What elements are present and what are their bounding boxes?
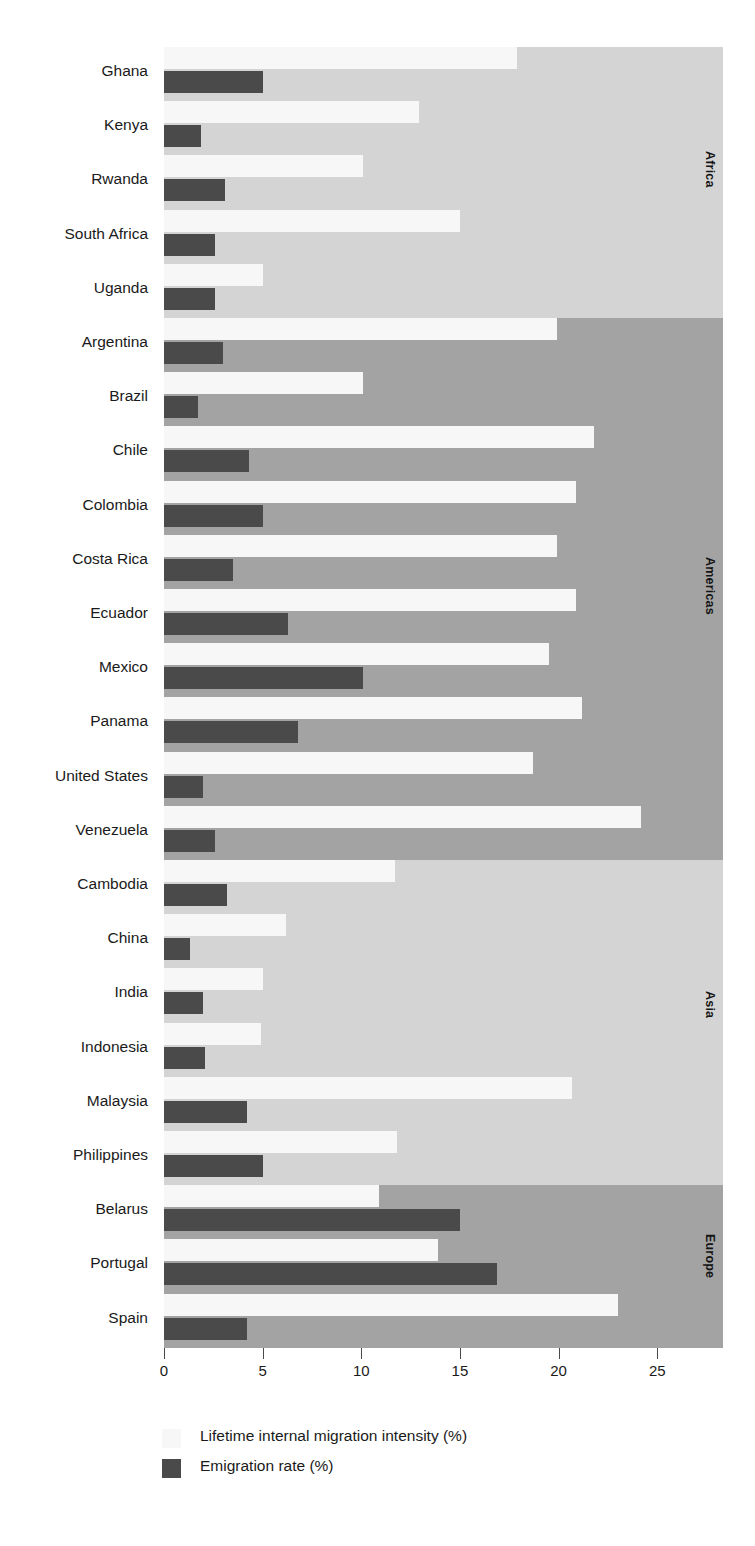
bar-group [164,589,723,643]
legend-swatch [162,1429,181,1448]
bar-group [164,1294,723,1348]
region-panel-americas: Americas [164,318,723,860]
bar-emigration-rate [164,288,215,310]
axis-tick [361,1348,362,1359]
category-label: Ghana [8,63,148,79]
bar-group [164,1239,723,1293]
bar-migration-intensity [164,968,263,990]
region-panel-europe: Europe [164,1185,723,1348]
legend-item: Emigration rate (%) [162,1454,682,1484]
bar-emigration-rate [164,1155,263,1177]
bar-group [164,372,723,426]
category-label: Philippines [8,1147,148,1163]
category-label: Portugal [8,1255,148,1271]
bar-migration-intensity [164,426,594,448]
axis-tick [164,1348,165,1359]
bar-group [164,914,723,968]
bar-group [164,968,723,1022]
category-label: Panama [8,713,148,729]
category-label: Uganda [8,280,148,296]
bar-group [164,155,723,209]
bar-group [164,264,723,318]
category-label: United States [8,768,148,784]
bar-emigration-rate [164,450,249,472]
bar-migration-intensity [164,860,395,882]
category-label: Malaysia [8,1093,148,1109]
bar-migration-intensity [164,155,363,177]
axis-tick-label: 25 [637,1362,677,1379]
bar-group [164,1023,723,1077]
bar-group [164,210,723,264]
bar-migration-intensity [164,264,263,286]
bar-group [164,1077,723,1131]
bar-group [164,535,723,589]
bar-migration-intensity [164,47,517,69]
migration-bar-chart: AfricaAmericasAsiaEurope GhanaKenyaRwand… [0,0,755,1546]
bar-migration-intensity [164,1077,572,1099]
x-axis: 0510152025 [0,1348,755,1392]
bar-migration-intensity [164,101,419,123]
axis-tick-label: 20 [539,1362,579,1379]
bar-emigration-rate [164,938,190,960]
axis-tick-label: 10 [341,1362,381,1379]
bar-emigration-rate [164,125,201,147]
axis-tick [559,1348,560,1359]
bar-migration-intensity [164,1239,438,1261]
bar-migration-intensity [164,318,557,340]
bar-group [164,481,723,535]
category-label: China [8,930,148,946]
bar-group [164,643,723,697]
category-label: Costa Rica [8,551,148,567]
legend-item: Lifetime internal migration intensity (%… [162,1424,682,1454]
bar-group [164,806,723,860]
bar-emigration-rate [164,1209,460,1231]
category-label: India [8,984,148,1000]
axis-tick [460,1348,461,1359]
bar-migration-intensity [164,1185,379,1207]
axis-tick-label: 15 [440,1362,480,1379]
bar-emigration-rate [164,992,203,1014]
axis-tick [263,1348,264,1359]
category-label: South Africa [8,226,148,242]
category-label: Ecuador [8,605,148,621]
category-label: Cambodia [8,876,148,892]
bar-group [164,1131,723,1185]
bar-group [164,318,723,372]
bar-migration-intensity [164,589,576,611]
legend-label: Lifetime internal migration intensity (%… [200,1427,467,1445]
bar-migration-intensity [164,697,582,719]
bar-emigration-rate [164,1263,497,1285]
bar-migration-intensity [164,481,576,503]
bar-migration-intensity [164,372,363,394]
bar-emigration-rate [164,884,227,906]
region-panel-asia: Asia [164,860,723,1185]
bar-emigration-rate [164,71,263,93]
bar-group [164,697,723,751]
bar-emigration-rate [164,559,233,581]
category-label: Colombia [8,497,148,513]
bar-migration-intensity [164,1023,261,1045]
bar-migration-intensity [164,806,641,828]
bar-migration-intensity [164,752,533,774]
bar-emigration-rate [164,234,215,256]
category-label: Venezuela [8,822,148,838]
category-label: Spain [8,1310,148,1326]
bar-emigration-rate [164,667,363,689]
bar-migration-intensity [164,535,557,557]
bar-emigration-rate [164,1047,205,1069]
bar-group [164,426,723,480]
bar-emigration-rate [164,505,263,527]
bar-migration-intensity [164,643,549,665]
bar-emigration-rate [164,613,288,635]
category-label: Argentina [8,334,148,350]
legend-label: Emigration rate (%) [200,1457,334,1475]
bar-emigration-rate [164,342,223,364]
category-label: Brazil [8,388,148,404]
bar-migration-intensity [164,1131,397,1153]
axis-tick-label: 0 [144,1362,184,1379]
axis-tick [657,1348,658,1359]
bar-migration-intensity [164,1294,618,1316]
bar-group [164,752,723,806]
category-label: Chile [8,442,148,458]
category-label: Mexico [8,659,148,675]
